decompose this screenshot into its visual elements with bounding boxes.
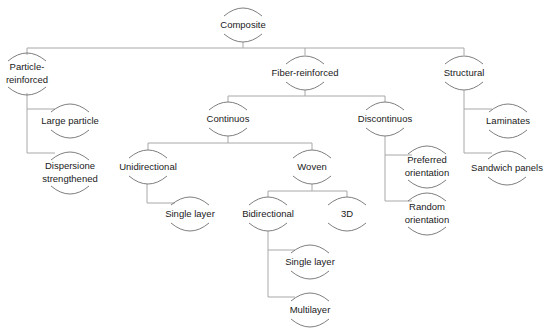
node-label: orientation bbox=[405, 214, 449, 225]
node-continuos: Continuos bbox=[207, 102, 250, 136]
node-label: Particle- bbox=[10, 61, 45, 72]
node-upper-arc bbox=[408, 146, 446, 154]
node-lower-arc bbox=[328, 223, 366, 231]
node-lower-arc bbox=[171, 223, 209, 231]
node-upper-arc bbox=[51, 104, 89, 112]
node-upper-arc bbox=[408, 193, 446, 201]
node-lower-arc bbox=[209, 128, 247, 136]
node-label: Continuos bbox=[207, 113, 250, 124]
node-label: orientation bbox=[405, 167, 449, 178]
node-lower-arc bbox=[291, 271, 329, 279]
node-label: Unidirectional bbox=[119, 161, 177, 172]
node-label: Discontinuos bbox=[358, 113, 413, 124]
node-label: 3D bbox=[341, 208, 353, 219]
node-upper-arc bbox=[291, 293, 329, 301]
node-upper-arc bbox=[249, 197, 287, 205]
node-lower-arc bbox=[408, 227, 446, 235]
node-upper-arc bbox=[489, 104, 527, 112]
node-lower-arc bbox=[293, 176, 331, 184]
node-upper-arc bbox=[293, 150, 331, 158]
connector-line bbox=[147, 184, 175, 203]
node-lower-arc bbox=[51, 186, 89, 194]
node-lower-arc bbox=[129, 176, 167, 184]
node-lower-arc bbox=[291, 319, 329, 327]
node-label: Single layer bbox=[165, 208, 215, 219]
node-upper-arc bbox=[291, 245, 329, 253]
node-upper-arc bbox=[129, 150, 167, 158]
node-label: Dispersione bbox=[45, 160, 95, 171]
node-unidirectional: Unidirectional bbox=[119, 150, 177, 184]
node-single-layer-uni: Single layer bbox=[165, 197, 215, 231]
node-label: Multilayer bbox=[290, 304, 331, 315]
node-label: Composite bbox=[220, 19, 265, 30]
node-upper-arc bbox=[171, 197, 209, 205]
node-lower-arc bbox=[366, 128, 404, 136]
node-label: Bidirectional bbox=[242, 208, 294, 219]
node-label: Single layer bbox=[285, 256, 335, 267]
node-upper-arc bbox=[51, 152, 89, 160]
node-bidirectional: Bidirectional bbox=[242, 197, 294, 231]
node-particle-reinforced: Particle-reinforced bbox=[6, 53, 48, 95]
node-multilayer: Multilayer bbox=[290, 293, 331, 327]
tree-nodes: CompositeParticle-reinforcedFiber-reinfo… bbox=[6, 8, 543, 327]
node-label: Laminates bbox=[486, 115, 530, 126]
node-lower-arc bbox=[445, 82, 483, 90]
node-fiber-reinforced: Fiber-reinforced bbox=[271, 56, 338, 90]
node-upper-arc bbox=[224, 8, 262, 16]
node-lower-arc bbox=[488, 177, 526, 185]
node-lower-arc bbox=[224, 34, 262, 42]
node-preferred-orientation: Preferredorientation bbox=[405, 146, 449, 188]
node-label: Sandwich panels bbox=[471, 162, 543, 173]
node-label: Large particle bbox=[41, 115, 99, 126]
node-lower-arc bbox=[249, 223, 287, 231]
node-lower-arc bbox=[408, 180, 446, 188]
node-label: Woven bbox=[297, 161, 326, 172]
node-label: reinforced bbox=[6, 74, 48, 85]
node-sandwich-panels: Sandwich panels bbox=[471, 151, 543, 185]
node-3d: 3D bbox=[328, 197, 366, 231]
node-upper-arc bbox=[328, 197, 366, 205]
composite-tree-diagram: CompositeParticle-reinforcedFiber-reinfo… bbox=[0, 0, 545, 335]
node-woven: Woven bbox=[293, 150, 331, 184]
node-laminates: Laminates bbox=[486, 104, 530, 138]
node-upper-arc bbox=[209, 102, 247, 110]
node-random-orientation: Randomorientation bbox=[405, 193, 449, 235]
node-label: Structural bbox=[444, 67, 485, 78]
node-lower-arc bbox=[489, 130, 527, 138]
node-upper-arc bbox=[445, 56, 483, 64]
node-label: Fiber-reinforced bbox=[271, 67, 338, 78]
node-label: Random bbox=[409, 201, 445, 212]
node-discontinuos: Discontinuos bbox=[358, 102, 413, 136]
node-upper-arc bbox=[286, 56, 324, 64]
node-label: strengthened bbox=[42, 173, 97, 184]
node-upper-arc bbox=[488, 151, 526, 159]
node-lower-arc bbox=[286, 82, 324, 90]
node-label: Preferred bbox=[407, 154, 447, 165]
node-dispersione-strengthened: Dispersionestrengthened bbox=[42, 152, 97, 194]
node-structural: Structural bbox=[444, 56, 485, 90]
node-lower-arc bbox=[51, 130, 89, 138]
node-upper-arc bbox=[366, 102, 404, 110]
node-composite: Composite bbox=[220, 8, 265, 42]
